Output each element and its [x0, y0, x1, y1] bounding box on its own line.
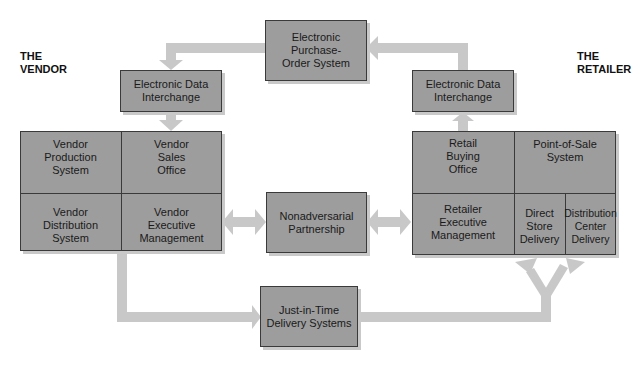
retailer-label: THE RETAILER	[577, 50, 631, 76]
retailer-executive-label: Retailer Executive Management	[431, 203, 495, 242]
retail-buying-node: Retail Buying Office	[412, 131, 514, 193]
vendor-executive-node: Vendor Executive Management	[121, 193, 222, 251]
distribution-center-node: Distribution Center Delivery	[565, 193, 616, 255]
partnership-node: Nonadversarial Partnership	[266, 192, 367, 253]
purchase-order-system-label: Electronic Purchase- Order System	[266, 31, 366, 70]
arrow-vendor-partnership-bidirectional	[222, 209, 266, 235]
vendor-distribution-node: Vendor Distribution System	[20, 193, 121, 251]
vendor-label: THE VENDOR	[20, 50, 67, 76]
arrow-buying-to-edi	[452, 112, 474, 131]
retailer-executive-node: Retailer Executive Management	[412, 193, 514, 255]
arrow-edi-to-sales	[159, 112, 183, 131]
point-of-sale-label: Point-of-Sale System	[533, 138, 597, 164]
arrow-vendor-to-jit	[117, 250, 261, 329]
edi-retailer-node: Electronic Data Interchange	[412, 70, 514, 112]
vendor-sales-label: Vendor Sales Office	[154, 138, 189, 177]
vendor-executive-label: Vendor Executive Management	[139, 206, 203, 245]
edi-retailer-label: Electronic Data Interchange	[426, 78, 501, 104]
vendor-production-label: Vendor Production System	[44, 138, 97, 177]
arrow-edi-to-po	[366, 36, 468, 70]
partnership-label: Nonadversarial Partnership	[280, 210, 354, 236]
point-of-sale-node: Point-of-Sale System	[514, 131, 616, 193]
purchase-order-system-node: Electronic Purchase- Order System	[265, 20, 367, 81]
retail-buying-label: Retail Buying Office	[446, 137, 480, 176]
vendor-sales-node: Vendor Sales Office	[121, 131, 222, 193]
direct-store-label: Direct Store Delivery	[520, 207, 560, 246]
edi-vendor-node: Electronic Data Interchange	[120, 70, 222, 112]
vendor-distribution-label: Vendor Distribution System	[43, 206, 98, 245]
arrow-partnership-retailer-bidirectional	[367, 209, 411, 235]
arrow-jit-to-retailer	[357, 258, 585, 322]
distribution-center-label: Distribution Center Delivery	[564, 207, 617, 246]
vendor-production-node: Vendor Production System	[20, 131, 121, 193]
jit-node: Just-in-Time Delivery Systems	[260, 286, 358, 347]
edi-vendor-label: Electronic Data Interchange	[134, 78, 209, 104]
jit-label: Just-in-Time Delivery Systems	[267, 304, 352, 330]
direct-store-node: Direct Store Delivery	[514, 193, 565, 255]
arrow-po-to-edi-vendor	[159, 43, 266, 70]
